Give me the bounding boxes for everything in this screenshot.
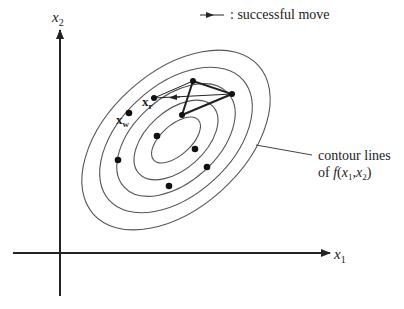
contour-lines [48,15,304,265]
legend-arrowhead-icon [206,12,214,18]
point-left-outer [115,157,122,164]
annotation-leader [256,145,312,155]
contour-1 [144,109,209,171]
point-right [229,91,235,97]
successful-move-arrow [170,97,180,98]
x1-axis-label: x1 [333,246,346,265]
legend-text: : successful move [230,7,330,22]
x2-axis-label: x2 [51,9,64,28]
diagram-canvas: x2 x1 xw xr : successful move co [0,0,404,309]
point-right-outer [204,164,211,171]
point-bottom-mid [166,183,173,190]
legend: : successful move [200,7,330,22]
annotation-line2: of f(x1,x2) [318,165,372,182]
contour-5 [48,15,304,265]
simplex-path [154,81,232,115]
contour-4 [72,39,279,241]
annotation-line1: contour lines [318,148,391,163]
point-top [190,78,196,84]
point-right-inner [192,146,199,153]
point-bottom [179,112,185,118]
contour-3 [96,62,256,218]
point-left-inner [154,133,161,140]
xr-label: xr [142,94,153,111]
point-xw [126,110,133,117]
